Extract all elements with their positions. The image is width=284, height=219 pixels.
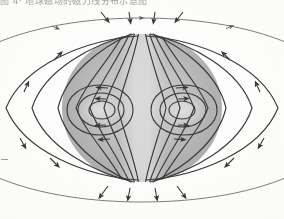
outer-arrowheads-top [52, 26, 232, 29]
sphere-body [62, 34, 222, 182]
arrowheads-bottom [100, 186, 185, 199]
magnetic-field-diagram [0, 0, 284, 219]
figure-root: 图 4· 地球磁场的磁力线分布示意图 [0, 0, 284, 219]
arrowheads-top [101, 12, 183, 22]
